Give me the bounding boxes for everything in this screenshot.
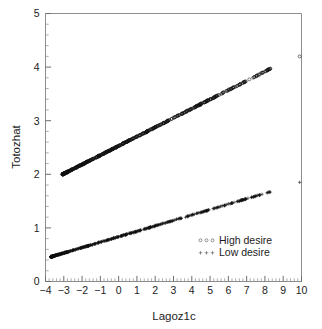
y-tick-label: 5 — [34, 7, 40, 19]
figure-background — [0, 0, 322, 329]
y-tick-label: 2 — [34, 168, 40, 180]
x-tick-label: 3 — [171, 284, 177, 296]
x-tick-label: 2 — [152, 284, 158, 296]
x-tick-label: 0 — [116, 284, 122, 296]
y-tick-label: 1 — [34, 222, 40, 234]
x-tick-label: 7 — [244, 284, 250, 296]
x-tick-label: −2 — [76, 284, 88, 296]
y-tick-label: 0 — [34, 275, 40, 287]
legend-label: Low desire — [219, 246, 270, 258]
x-tick-label: −4 — [40, 284, 52, 296]
x-tick-label: 8 — [262, 284, 268, 296]
x-tick-label: 9 — [280, 284, 286, 296]
y-axis-title: Totozhat — [10, 124, 22, 168]
x-axis-tick-labels: −4−3−2−1012345678910 — [40, 284, 308, 296]
y-tick-label: 4 — [34, 61, 40, 73]
x-axis-title: Lagoz1c — [152, 310, 196, 322]
plot-canvas: −4−3−2−1012345678910 012345 High desireL… — [0, 0, 322, 329]
y-tick-label: 3 — [34, 115, 40, 127]
legend-label: High desire — [219, 234, 272, 246]
x-tick-label: −1 — [94, 284, 106, 296]
scatter-plot-figure: −4−3−2−1012345678910 012345 High desireL… — [0, 0, 322, 329]
x-tick-label: 10 — [296, 284, 308, 296]
x-tick-label: 1 — [134, 284, 140, 296]
x-tick-label: 4 — [189, 284, 195, 296]
x-tick-label: −3 — [58, 284, 70, 296]
x-tick-label: 5 — [207, 284, 213, 296]
x-tick-label: 6 — [225, 284, 231, 296]
